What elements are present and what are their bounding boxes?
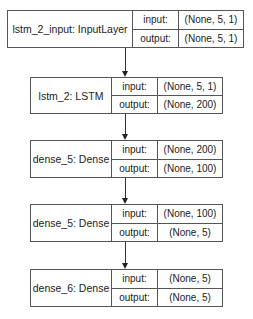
node-lstm: lstm_2: LSTM input:(None, 5, 1) output:(…	[30, 77, 223, 114]
output-label: output:	[112, 224, 158, 242]
output-shape: (None, 5)	[158, 289, 222, 307]
output-label: output:	[133, 30, 179, 48]
output-label: output:	[112, 96, 158, 113]
node-dense-b: dense_5: Dense input:(None, 100) output:…	[30, 204, 223, 242]
edge-2-3	[125, 178, 126, 199]
output-label: output:	[112, 289, 158, 307]
input-shape: (None, 200)	[158, 141, 222, 159]
node-name: lstm_2: LSTM	[31, 78, 112, 113]
output-shape: (None, 5)	[158, 224, 222, 242]
node-dense-c: dense_6: Dense input:(None, 5) output:(N…	[30, 269, 223, 307]
input-shape: (None, 5, 1)	[179, 11, 243, 29]
input-label: input:	[112, 78, 158, 95]
input-label: input:	[112, 205, 158, 223]
node-name: lstm_2_input: InputLayer	[8, 11, 133, 47]
edge-1-2	[125, 114, 126, 135]
input-shape: (None, 5, 1)	[158, 78, 222, 95]
input-shape: (None, 100)	[158, 205, 222, 223]
input-label: input:	[112, 141, 158, 159]
input-label: input:	[133, 11, 179, 29]
node-input-layer: lstm_2_input: InputLayer input:(None, 5,…	[7, 10, 244, 48]
node-dense-a: dense_5: Dense input:(None, 200) output:…	[30, 140, 223, 178]
node-name: dense_5: Dense	[31, 141, 112, 177]
input-shape: (None, 5)	[158, 270, 222, 288]
output-shape: (None, 100)	[158, 160, 222, 178]
node-name: dense_6: Dense	[31, 270, 112, 306]
edge-3-4	[125, 242, 126, 264]
edge-0-1	[125, 48, 126, 72]
input-label: input:	[112, 270, 158, 288]
output-label: output:	[112, 160, 158, 178]
output-shape: (None, 5, 1)	[179, 30, 243, 48]
output-shape: (None, 200)	[158, 96, 222, 113]
node-name: dense_5: Dense	[31, 205, 112, 241]
